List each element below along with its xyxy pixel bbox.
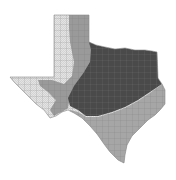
state-shape: [0, 0, 176, 180]
county-lines: [0, 0, 176, 180]
texas-map: [0, 0, 176, 180]
map-canvas: [0, 0, 176, 180]
